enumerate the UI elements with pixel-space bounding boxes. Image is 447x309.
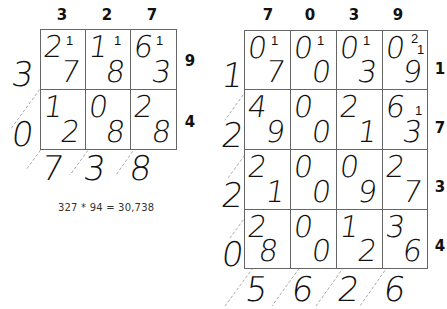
bottom-result-digit: 6 (290, 272, 316, 306)
cell-ones-digit: 0 (310, 177, 333, 207)
cell-ones-digit: 8 (104, 117, 127, 147)
lattice-cell: 0 2 1 9 (382, 30, 428, 90)
right-right-digit: 4 (430, 237, 447, 255)
lattice-cell: 2 1 7 (40, 29, 86, 90)
bottom-result-digit: 5 (244, 272, 270, 306)
cell-tens-digit: 6 (132, 32, 155, 62)
bottom-result-digit: 8 (128, 151, 154, 185)
bottom-result-digit: 7 (40, 151, 66, 185)
left-result-digit: 2 (220, 118, 246, 152)
bottom-result-digit: 2 (336, 272, 362, 306)
cell-tens-digit: 1 (42, 92, 65, 122)
cell-tens-digit: 2 (132, 92, 155, 122)
cell-ones-digit: 7 (59, 57, 82, 87)
lattice-cell: 2 8 (130, 89, 177, 150)
left-result-digit: 1 (220, 58, 246, 92)
cell-tens-digit: 0 (338, 33, 361, 63)
lattice-cell: 2 1 (244, 149, 291, 210)
cell-ones-digit: 3 (356, 57, 379, 87)
lattice-cell: 6 1 3 (130, 29, 177, 90)
lattice-cell: 0 0 (290, 149, 337, 210)
lattice-cell: 2 8 (244, 209, 291, 269)
cell-ones-digit: 7 (401, 177, 424, 207)
left-result-digit: 0 (10, 117, 36, 151)
cell-ones-digit: 0 (310, 236, 333, 266)
left-right-digit: 9 (180, 52, 200, 70)
left-result-digit: 2 (220, 178, 246, 212)
lattice-cell: 0 1 0 (290, 30, 337, 90)
right-top-digit: 3 (344, 6, 364, 24)
left-top-digit: 2 (97, 6, 117, 24)
right-top-digit: 9 (388, 6, 408, 24)
equation-caption: 327 * 94 = 30,738 (58, 202, 154, 213)
cell-tens-digit: 0 (246, 33, 269, 63)
cell-ones-digit: 8 (257, 236, 280, 266)
left-right-digit: 4 (180, 113, 200, 131)
cell-ones-digit: 0 (310, 57, 333, 87)
right-top-digit: 0 (300, 6, 320, 24)
cell-ones-digit: 9 (264, 117, 287, 147)
lattice-cell: 2 7 (382, 149, 428, 210)
carry-digit: 1 (66, 34, 73, 47)
cell-ones-digit: 1 (356, 117, 379, 147)
lattice-cell: 3 6 (382, 209, 428, 269)
cell-tens-digit: 0 (292, 212, 315, 242)
lattice-cell: 1 2 (336, 209, 383, 269)
lattice-cell: 1 2 (40, 89, 86, 150)
cell-tens-digit: 0 (384, 33, 407, 63)
cell-tens-digit: 2 (42, 32, 65, 62)
cell-tens-digit: 0 (338, 152, 361, 182)
carry-digit: 1 (317, 34, 324, 47)
right-right-digit: 3 (430, 178, 447, 196)
cell-tens-digit: 3 (384, 212, 407, 242)
lattice-cell: 2 1 (336, 89, 383, 150)
cell-tens-digit: 0 (292, 152, 315, 182)
lattice-cell: 4 9 (244, 89, 291, 150)
lattice-cell: 0 1 3 (336, 30, 383, 90)
bottom-result-digit: 3 (82, 151, 108, 185)
cell-ones-digit: 6 (401, 236, 424, 266)
lattice-cell: 0 0 (290, 89, 337, 150)
cell-tens-digit: 2 (384, 152, 407, 182)
cell-tens-digit: 1 (338, 212, 361, 242)
lattice-cell: 0 1 7 (244, 30, 291, 90)
cell-tens-digit: 4 (246, 92, 269, 122)
lattice-cell: 0 0 (290, 209, 337, 269)
cell-tens-digit: 0 (292, 92, 315, 122)
lattice-cell: 0 8 (85, 89, 131, 150)
left-top-digit: 7 (142, 6, 162, 24)
cell-ones-digit: 7 (264, 57, 287, 87)
cell-tens-digit: 1 (87, 32, 110, 62)
lattice-cell: 6 1 3 (382, 89, 428, 150)
cell-ones-digit: 3 (401, 117, 424, 147)
carry-digit: 1 (271, 34, 278, 47)
cell-ones-digit: 8 (104, 57, 127, 87)
cell-ones-digit: 2 (356, 236, 379, 266)
cell-tens-digit: 2 (338, 92, 361, 122)
cell-ones-digit: 9 (356, 177, 379, 207)
right-right-digit: 1 (430, 60, 447, 78)
left-result-digit: 0 (220, 237, 246, 271)
left-result-digit: 3 (10, 57, 36, 91)
lattice-cell: 1 1 8 (85, 29, 131, 90)
carry-digit: 1 (156, 34, 163, 47)
carry-digit: 1 (114, 34, 121, 47)
lattice-cell: 0 9 (336, 149, 383, 210)
carry-digit: 1 (363, 34, 370, 47)
cell-ones-digit: 2 (59, 117, 82, 147)
cell-tens-digit: 2 (246, 152, 269, 182)
cell-ones-digit: 8 (150, 117, 173, 147)
cell-tens-digit: 0 (292, 33, 315, 63)
cell-ones-digit: 0 (310, 117, 333, 147)
right-top-digit: 7 (258, 6, 278, 24)
right-right-digit: 7 (430, 119, 447, 137)
cell-ones-digit: 3 (150, 57, 173, 87)
cell-ones-digit: 1 (264, 177, 287, 207)
cell-tens-digit: 6 (384, 92, 407, 122)
bottom-result-digit: 6 (382, 272, 408, 306)
cell-ones-digit: 9 (401, 57, 424, 87)
left-top-digit: 3 (52, 6, 72, 24)
cell-tens-digit: 0 (87, 92, 110, 122)
